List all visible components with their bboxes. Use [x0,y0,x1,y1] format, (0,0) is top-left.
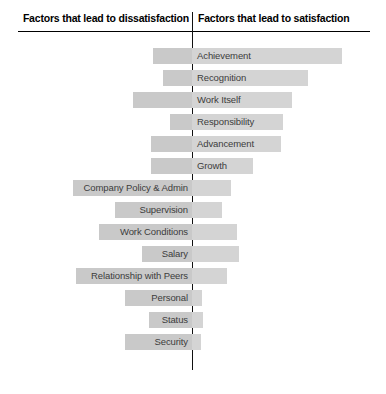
header-divider-rule [18,31,370,32]
bar-label-relationship-with-peers: Relationship with Peers [91,268,192,284]
bar-row: Advancement [0,134,386,156]
bar-row: Recognition [0,68,386,90]
bar-segment-dissatisfaction [170,114,192,130]
bar-row: Salary [0,244,386,266]
bar-segment-satisfaction [192,202,222,218]
bar-label-personal: Personal [151,290,192,306]
bar-rows: AchievementRecognitionWork ItselfRespons… [0,46,386,354]
bar-segment-dissatisfaction [151,158,192,174]
bar-segment-satisfaction [192,290,202,306]
bar-row: Growth [0,156,386,178]
bar-segment-dissatisfaction [153,48,192,64]
bar-segment-satisfaction [192,246,239,262]
bar-segment-dissatisfaction [163,70,192,86]
bar-segment-satisfaction [192,268,227,284]
bar-row: Work Conditions [0,222,386,244]
bar-label-advancement: Advancement [192,136,254,152]
chart-header: Factors that lead to dissatisfaction Fac… [0,10,386,32]
bar-row: Achievement [0,46,386,68]
bar-segment-dissatisfaction [151,136,192,152]
bar-label-recognition: Recognition [192,70,246,86]
bar-label-work-itself: Work Itself [192,92,241,108]
bar-segment-satisfaction [192,224,237,240]
bar-row: Security [0,332,386,354]
bar-label-responsibility: Responsibility [192,114,254,130]
header-dissatisfaction-title: Factors that lead to dissatisfaction [23,10,189,26]
bar-segment-satisfaction [192,312,203,328]
bar-label-work-conditions: Work Conditions [120,224,192,240]
bar-segment-dissatisfaction [133,92,192,108]
bar-label-growth: Growth [192,158,227,174]
bar-row: Responsibility [0,112,386,134]
bar-segment-satisfaction [192,180,231,196]
bar-row: Status [0,310,386,332]
bar-label-achievement: Achievement [192,48,251,64]
bar-row: Supervision [0,200,386,222]
bar-row: Work Itself [0,90,386,112]
bar-row: Personal [0,288,386,310]
bar-label-salary: Salary [162,246,192,262]
bar-segment-satisfaction [192,334,201,350]
bar-label-status: Status [162,312,192,328]
bar-row: Company Policy & Admin [0,178,386,200]
header-satisfaction-title: Factors that lead to satisfaction [198,10,350,26]
bar-row: Relationship with Peers [0,266,386,288]
bar-label-security: Security [154,334,192,350]
two-factor-chart: Factors that lead to dissatisfaction Fac… [0,0,386,394]
bar-label-company-policy-admin: Company Policy & Admin [84,180,192,196]
bar-label-supervision: Supervision [139,202,192,218]
